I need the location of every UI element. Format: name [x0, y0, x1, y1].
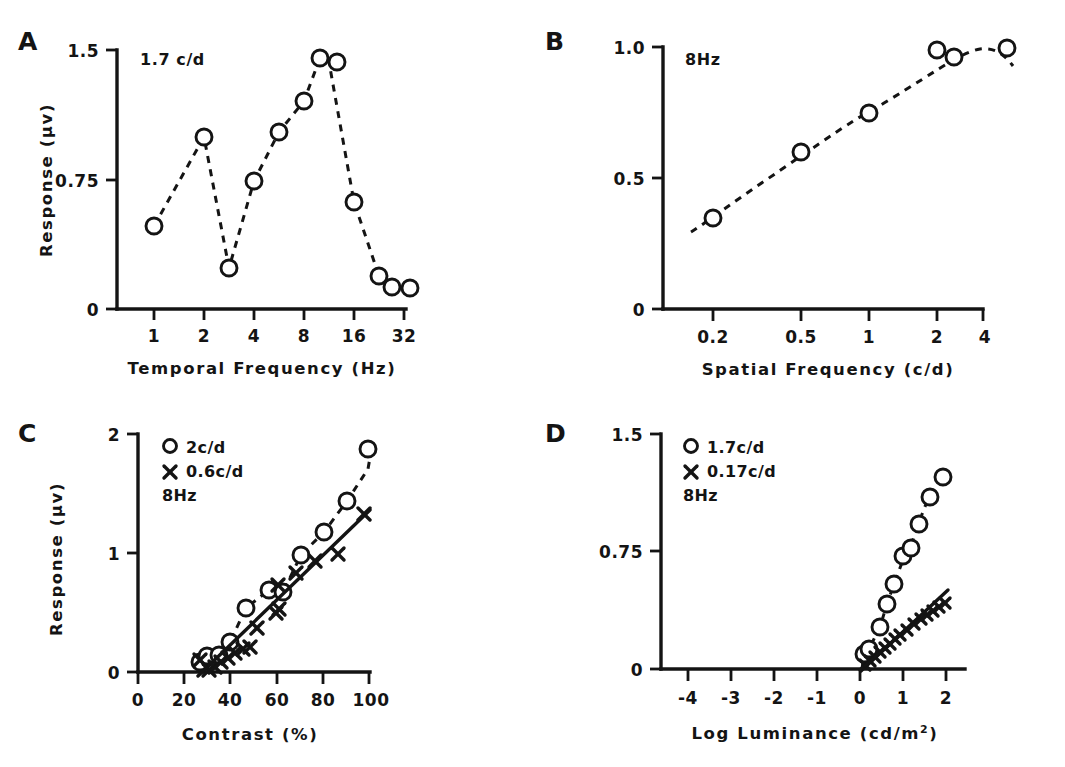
- panel-a-xtick-label-4: 8: [298, 326, 310, 346]
- data-point: [196, 129, 212, 145]
- panel-d-letter: D: [545, 419, 566, 448]
- panel-c-ytick-label-1: 2: [108, 425, 120, 445]
- panel-c-legend-label-2: 0.6c/d: [186, 462, 244, 481]
- panel-a-ytick-label-2: 0.75: [55, 171, 99, 191]
- panel-d-xtick-label-5: 0: [854, 688, 866, 708]
- panel-c-ytick-label-2: 1: [108, 544, 120, 564]
- panel-a-annotation: 1.7 c/d: [140, 50, 205, 69]
- panel-b-series-curve: [691, 49, 1013, 232]
- data-point: [296, 93, 312, 109]
- panel-d-x-axis-title-sup: 2: [920, 723, 929, 736]
- panel-c-xtick-label-6: 100: [353, 690, 390, 710]
- panel-a-ytick-label-1: 1.5: [67, 41, 99, 61]
- data-point: [872, 619, 888, 635]
- data-point: [929, 42, 945, 58]
- panel-d-x-axis-title: Log Luminance (cd/m2): [691, 723, 938, 743]
- data-point: [384, 279, 400, 295]
- panel-c-legend-label-3: 8Hz: [162, 486, 197, 505]
- data-point: [316, 524, 332, 540]
- panel-c-xtick-label-4: 60: [265, 690, 290, 710]
- panel-a-xtick-label-2: 2: [198, 326, 210, 346]
- data-point: [146, 218, 162, 234]
- panel-d-xtick-label-3: -2: [764, 688, 784, 708]
- data-point: [246, 173, 262, 189]
- data-point: [861, 105, 877, 121]
- panel-b-xtick-label-4: 2: [931, 327, 943, 347]
- panel-a-series-curve: [154, 58, 404, 289]
- panel-a-y-axis-title: Response (μv): [37, 103, 56, 257]
- panel-c-xtick-label-2: 20: [172, 690, 197, 710]
- data-point: [879, 596, 895, 612]
- panel-b-xtick-label-2: 0.5: [785, 327, 817, 347]
- panel-d-xtick-label-4: -1: [807, 688, 827, 708]
- data-point: [312, 50, 328, 66]
- panel-c-letter: C: [18, 419, 36, 448]
- data-point: [329, 54, 345, 70]
- panel-c-xtick-label-3: 40: [218, 690, 243, 710]
- panel-c-ytick-label-3: 0: [108, 663, 120, 683]
- panel-d-legend-label-2: 0.17c/d: [707, 462, 776, 481]
- panel-d-xtick-label-1: -4: [678, 688, 698, 708]
- data-point: [238, 600, 254, 616]
- data-point: [346, 194, 362, 210]
- panel-d-series-17cd-curve: [862, 481, 941, 669]
- data-point: [922, 489, 938, 505]
- panel-a-letter: A: [18, 27, 38, 56]
- panel-d-ytick-label-3: 0: [631, 660, 643, 680]
- panel-d-ytick-label-1: 1.5: [611, 425, 643, 445]
- panel-d-legend-label-1: 1.7c/d: [707, 438, 765, 457]
- panel-a-xtick-label-5: 16: [342, 326, 367, 346]
- panel-d-xtick-label-6: 1: [897, 688, 909, 708]
- data-point: [886, 576, 902, 592]
- panel-d-ytick-label-2: 0.75: [599, 542, 643, 562]
- data-point: [935, 469, 951, 485]
- panel-a-ytick-label-3: 0: [87, 300, 99, 320]
- data-point: [339, 493, 355, 509]
- data-point: [999, 40, 1015, 56]
- panel-d-x-axis-title-tail: ): [929, 724, 938, 743]
- data-point: [293, 547, 309, 563]
- data-point: [402, 280, 418, 296]
- panel-b-xtick-label-5: 4: [979, 327, 991, 347]
- data-point: [221, 260, 237, 276]
- panel-b-ytick-label-2: 0.5: [613, 169, 645, 189]
- panel-c-series-06cd-fitline: [198, 510, 370, 676]
- panel-c-legend-label-1: 2c/d: [186, 438, 226, 457]
- data-point: [705, 210, 721, 226]
- panel-d-legend-label-3: 8Hz: [683, 486, 718, 505]
- panel-b-x-axis-title: Spatial Frequency (c/d): [702, 360, 955, 379]
- panel-a: A 1.5 0.75 0 1 2 4 8 16 32 Te: [0, 0, 532, 384]
- panel-a-xtick-label-3: 4: [248, 326, 260, 346]
- panel-b-letter: B: [545, 27, 564, 56]
- data-point-group-cross: [860, 598, 950, 670]
- data-point: [271, 124, 287, 140]
- figure-root: A 1.5 0.75 0 1 2 4 8 16 32 Te: [0, 0, 1065, 767]
- data-point: [946, 49, 962, 65]
- panel-c-x-axis-title: Contrast (%): [182, 725, 319, 744]
- panel-b: B 1.0 0.5 0 0.2 0.5 1 2 4 Spatial Freque…: [533, 0, 1065, 384]
- cross-marker-icon: [164, 466, 176, 478]
- panel-d-xtick-label-2: -3: [721, 688, 741, 708]
- circle-marker-icon: [685, 440, 698, 453]
- panel-c: C 2 1 0 0 20 40 60 80 100 Contrast (%) R…: [0, 384, 532, 767]
- data-point: [793, 144, 809, 160]
- cross-marker-icon: [685, 466, 697, 478]
- panel-d-x-axis-title-main: Log Luminance (cd/m: [691, 724, 920, 743]
- data-point: [911, 516, 927, 532]
- panel-b-xtick-label-1: 0.2: [697, 327, 729, 347]
- panel-d: D 1.5 0.75 0 -4 -3 -2 -1 0 1 2 Log Lu: [533, 384, 1065, 767]
- data-point: [903, 540, 919, 556]
- panel-a-xtick-label-6: 32: [392, 326, 417, 346]
- panel-d-xtick-label-7: 2: [940, 688, 952, 708]
- panel-b-ytick-label-3: 0: [633, 300, 645, 320]
- circle-marker-icon: [164, 440, 177, 453]
- panel-b-ytick-label-1: 1.0: [613, 38, 645, 58]
- panel-c-xtick-label-1: 0: [132, 690, 144, 710]
- panel-c-y-axis-title: Response (μv): [47, 482, 66, 636]
- panel-a-x-axis-title: Temporal Frequency (Hz): [128, 359, 397, 378]
- panel-b-annotation: 8Hz: [685, 50, 721, 69]
- data-point: [360, 441, 376, 457]
- panel-a-xtick-label-1: 1: [148, 326, 160, 346]
- panel-b-xtick-label-3: 1: [863, 327, 875, 347]
- panel-c-xtick-label-5: 80: [311, 690, 336, 710]
